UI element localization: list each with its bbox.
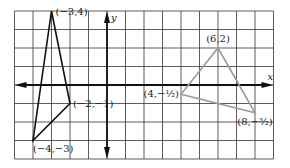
vertex-label: (−2,−1): [73, 98, 114, 109]
vertex-label: (−4,−3): [33, 143, 74, 154]
coordinate-plane: xy (−3,4)(−2,−1)(−4,−3)(6,2)(8,−³⁄₂)(4,−…: [0, 0, 290, 168]
y-axis-label: y: [110, 12, 117, 23]
x-axis-label: x: [268, 71, 274, 82]
y-axis-arrow-up-icon: [104, 11, 110, 23]
vertex-label: (4,−¹⁄₂): [144, 88, 180, 99]
x-axis-arrow-left-icon: [15, 82, 27, 88]
y-axis-arrow-down-icon: [104, 147, 110, 159]
vertex-label: (8,−³⁄₂): [237, 116, 273, 127]
vertex-label: (6,2): [206, 33, 230, 44]
x-axis-arrow-right-icon: [262, 82, 274, 88]
vertex-label: (−3,4): [56, 6, 88, 17]
